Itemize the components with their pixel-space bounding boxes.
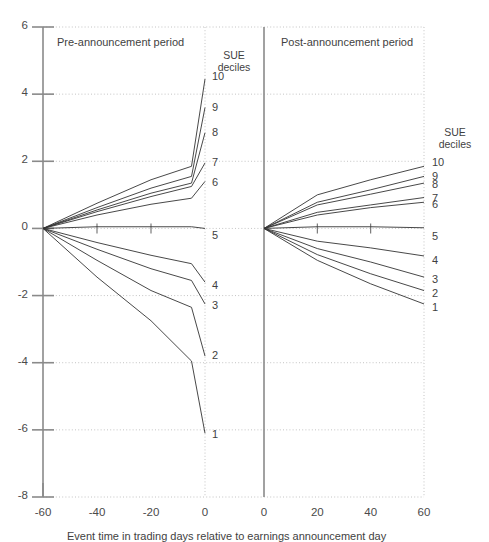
decile-label-right-8: 8 — [432, 178, 438, 190]
decile-label-right-6: 6 — [432, 198, 438, 210]
pre-announcement-series-10 — [43, 79, 205, 228]
decile-label-right-5: 5 — [432, 230, 438, 242]
y-axis-tick-label-6: 6 — [2, 19, 28, 31]
post-announcement-series-9 — [264, 176, 424, 228]
y-axis-tick-label-4: 4 — [2, 86, 28, 98]
decile-label-right-3: 3 — [432, 273, 438, 285]
pre-announcement-series-9 — [43, 108, 205, 229]
decile-label-left-1: 1 — [212, 428, 218, 440]
pre-announcement-series-3 — [43, 228, 205, 304]
decile-label-left-4: 4 — [212, 279, 218, 291]
x-axis-tick-label-left--60: -60 — [23, 506, 63, 518]
y-axis-tick-label-2: 2 — [2, 153, 28, 165]
pre-announcement-series-4 — [43, 228, 205, 282]
y-axis-tick-label-0: 0 — [2, 220, 28, 232]
x-axis-title: Event time in trading days relative to e… — [67, 530, 386, 542]
x-axis-tick-label-right-20: 20 — [297, 506, 337, 518]
decile-label-left-6: 6 — [212, 176, 218, 188]
pre-announcement-series-6 — [43, 181, 205, 228]
sue-deciles-header-left: SUE — [211, 49, 257, 61]
decile-label-right-2: 2 — [432, 287, 438, 299]
y-axis-tick-label--6: -6 — [2, 422, 28, 434]
decile-label-right-1: 1 — [432, 301, 438, 313]
decile-label-left-2: 2 — [212, 349, 218, 361]
post-announcement-panel-title: Post-announcement period — [281, 36, 413, 48]
x-axis-tick-label-right-40: 40 — [351, 506, 391, 518]
pre-announcement-panel-title: Pre-announcement period — [57, 36, 184, 48]
post-announcement-series-4 — [264, 228, 424, 256]
x-axis-tick-label-left-0: 0 — [185, 506, 225, 518]
pre-announcement-series-2 — [43, 228, 205, 356]
x-axis-tick-label-left--40: -40 — [77, 506, 117, 518]
x-axis-tick-label-right-0: 0 — [244, 506, 284, 518]
x-axis-tick-label-left--20: -20 — [131, 506, 171, 518]
y-axis-tick-label--2: -2 — [2, 288, 28, 300]
decile-label-left-8: 8 — [212, 126, 218, 138]
decile-label-left-7: 7 — [212, 156, 218, 168]
decile-label-left-9: 9 — [212, 101, 218, 113]
decile-label-right-4: 4 — [432, 254, 438, 266]
decile-label-right-10: 10 — [432, 156, 444, 168]
sue-deciles-header-right: SUE — [432, 126, 478, 138]
post-announcement-series-6 — [264, 202, 424, 228]
post-announcement-series-10 — [264, 166, 424, 228]
y-axis-tick-label--4: -4 — [2, 355, 28, 367]
sue-deciles-subheader-right: deciles — [432, 138, 478, 150]
y-axis-tick-label--8: -8 — [2, 489, 28, 501]
decile-label-left-10: 10 — [212, 70, 224, 82]
x-axis-tick-label-right-60: 60 — [404, 506, 444, 518]
decile-label-left-5: 5 — [212, 229, 218, 241]
decile-label-left-3: 3 — [212, 299, 218, 311]
pre-announcement-series-8 — [43, 133, 205, 229]
